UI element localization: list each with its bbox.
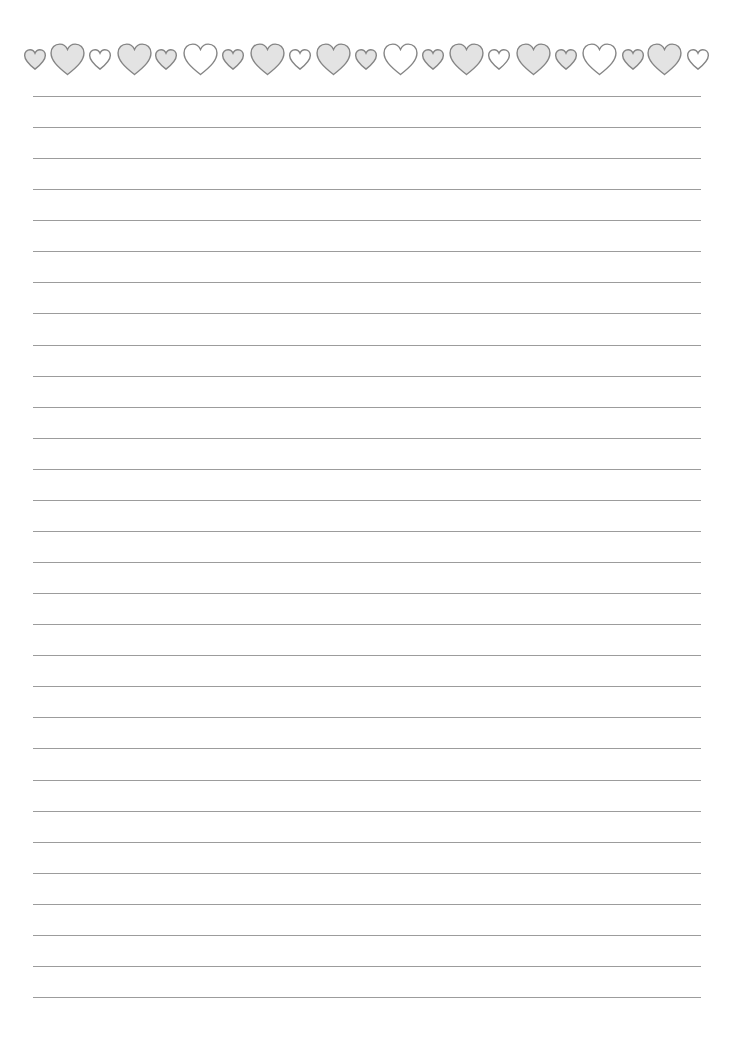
heart-icon — [555, 49, 577, 70]
heart-icon — [183, 43, 218, 76]
ruled-line — [33, 158, 701, 159]
heart-icon — [89, 49, 111, 70]
ruled-line — [33, 376, 701, 377]
ruled-line — [33, 469, 701, 470]
heart-icon — [383, 43, 418, 76]
ruled-line — [33, 345, 701, 346]
heart-icon — [155, 49, 177, 70]
ruled-line — [33, 251, 701, 252]
ruled-line — [33, 127, 701, 128]
heart-icon — [289, 49, 311, 70]
heart-icon — [582, 43, 617, 76]
heart-border — [0, 0, 738, 90]
ruled-line — [33, 966, 701, 967]
ruled-line — [33, 531, 701, 532]
ruled-line — [33, 593, 701, 594]
ruled-line — [33, 842, 701, 843]
ruled-line — [33, 873, 701, 874]
ruled-line — [33, 935, 701, 936]
ruled-line — [33, 189, 701, 190]
ruled-line — [33, 313, 701, 314]
ruled-line — [33, 686, 701, 687]
heart-icon — [222, 49, 244, 70]
heart-icon — [516, 43, 551, 76]
heart-icon — [422, 49, 444, 70]
heart-icon — [250, 43, 285, 76]
heart-icon — [488, 49, 510, 70]
ruled-line — [33, 655, 701, 656]
heart-icon — [24, 49, 46, 70]
ruled-line — [33, 220, 701, 221]
ruled-line — [33, 780, 701, 781]
ruled-line — [33, 904, 701, 905]
ruled-line — [33, 96, 701, 97]
ruled-line — [33, 562, 701, 563]
heart-icon — [647, 43, 682, 76]
heart-icon — [687, 49, 709, 70]
heart-icon — [117, 43, 152, 76]
heart-icon — [50, 43, 85, 76]
ruled-line — [33, 500, 701, 501]
ruled-line — [33, 748, 701, 749]
ruled-line — [33, 282, 701, 283]
ruled-line — [33, 407, 701, 408]
ruled-line — [33, 811, 701, 812]
ruled-line — [33, 717, 701, 718]
ruled-line — [33, 438, 701, 439]
heart-icon — [355, 49, 377, 70]
heart-icon — [316, 43, 351, 76]
ruled-line — [33, 624, 701, 625]
ruled-line — [33, 997, 701, 998]
heart-icon — [449, 43, 484, 76]
heart-icon — [622, 49, 644, 70]
